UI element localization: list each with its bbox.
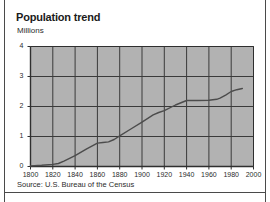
x-axis-tick-label: 1960	[197, 171, 221, 178]
x-axis-tick-label: 2000	[242, 171, 266, 178]
x-axis-tick-label: 1860	[85, 171, 109, 178]
x-axis-tick-label: 1940	[175, 171, 199, 178]
y-axis-tick-label: 0	[10, 162, 24, 169]
y-axis-tick-label: 4	[10, 42, 24, 49]
y-axis-tick-label: 1	[10, 132, 24, 139]
y-axis-tick-label: 3	[10, 72, 24, 79]
plot-area: 01234 1800182018401860188019001920194019…	[0, 0, 270, 202]
x-axis-tick-label: 1920	[152, 171, 176, 178]
x-axis-tick-label: 1800	[19, 171, 43, 178]
y-axis-tick-label: 2	[10, 102, 24, 109]
source-note: Source: U.S. Bureau of the Census	[17, 180, 134, 189]
figure-container: Population trend Millions 01234 18001820…	[0, 0, 270, 202]
x-axis-tick-label: 1880	[108, 171, 132, 178]
x-axis-tick-label: 1980	[219, 171, 243, 178]
x-axis-tick-label: 1820	[41, 171, 65, 178]
x-axis-tick-label: 1900	[130, 171, 154, 178]
x-axis-tick-label: 1840	[63, 171, 87, 178]
